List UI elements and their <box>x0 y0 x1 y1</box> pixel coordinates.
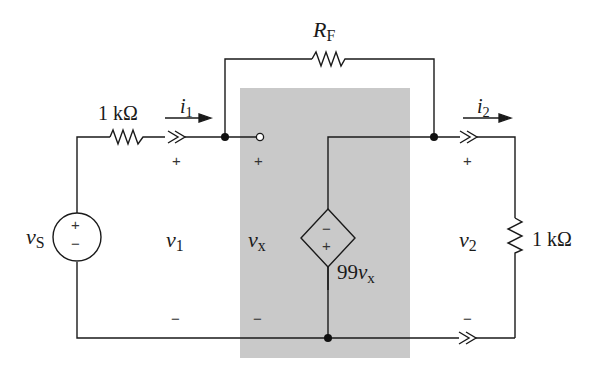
v2-label: v2 <box>459 229 477 254</box>
vx-subscript: x <box>258 237 266 254</box>
output-node-dot <box>430 133 438 141</box>
v1-symbol: v <box>166 227 176 252</box>
dep-source-label: 99vx <box>337 262 375 286</box>
v2-plus-sign: + <box>463 153 472 168</box>
dep-sub: x <box>367 270 375 286</box>
vx-minus-sign: − <box>253 311 262 326</box>
rf-symbol: R <box>313 17 326 42</box>
vx-label: vx <box>248 229 266 254</box>
dep-gain: 99 <box>337 260 358 284</box>
vx-plus-sign: + <box>254 153 263 168</box>
i2-label: i2 <box>477 96 490 119</box>
input-resistor <box>110 130 165 144</box>
v2-minus-sign: − <box>463 311 472 326</box>
output-port-chevron-bottom <box>459 332 476 344</box>
vs-subscript: S <box>36 234 45 251</box>
v2-subscript: 2 <box>469 237 477 254</box>
input-node-dot <box>221 133 229 141</box>
source-plus-sign: + <box>71 217 80 232</box>
vs-label: vS <box>26 226 45 251</box>
i1-label: i1 <box>180 96 193 119</box>
load-resistor <box>508 218 522 338</box>
input-port-chevron-top <box>168 131 185 143</box>
output-port-chevron-top <box>460 131 477 143</box>
circuit-diagram: 1 kΩ RF 1 kΩ i1 i2 vS + − + v1 − + vx − … <box>0 0 595 372</box>
i2-subscript: 2 <box>483 104 490 120</box>
vx-open-terminal <box>256 133 263 140</box>
v1-minus-sign: − <box>171 311 180 326</box>
dep-source-plus-sign: + <box>322 238 331 253</box>
v1-plus-sign: + <box>172 153 181 168</box>
source-top-wire <box>77 137 110 213</box>
vs-symbol: v <box>26 224 36 249</box>
source-minus-sign: − <box>71 236 80 251</box>
input-resistor-label: 1 kΩ <box>98 103 138 123</box>
load-top-wire <box>477 137 515 218</box>
vx-symbol: v <box>248 227 258 252</box>
i1-arrow-head <box>199 114 211 122</box>
i2-arrow-head <box>499 114 511 122</box>
circuit-schematic <box>0 0 595 372</box>
v1-subscript: 1 <box>176 237 184 254</box>
i1-subscript: 1 <box>186 104 193 120</box>
v1-label: v1 <box>166 229 184 254</box>
load-resistor-label: 1 kΩ <box>532 229 572 249</box>
v2-symbol: v <box>459 227 469 252</box>
dep-var: v <box>358 260 367 284</box>
dep-source-minus-sign: − <box>322 221 331 236</box>
feedback-resistor-label: RF <box>313 19 335 44</box>
rf-subscript: F <box>326 27 335 44</box>
ground-node-dot <box>324 334 332 342</box>
